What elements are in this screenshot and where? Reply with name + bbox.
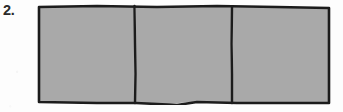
worksheet-figure-page: 2. — [0, 0, 343, 112]
shaded-cell-1 — [39, 6, 135, 104]
model-divider-1 — [135, 6, 136, 103]
shaded-cell-3 — [233, 7, 329, 103]
exercise-number-label: 2. — [3, 1, 15, 19]
shaded-cell-2 — [136, 6, 231, 105]
area-model-figure — [37, 4, 331, 105]
area-model-svg — [37, 4, 331, 105]
